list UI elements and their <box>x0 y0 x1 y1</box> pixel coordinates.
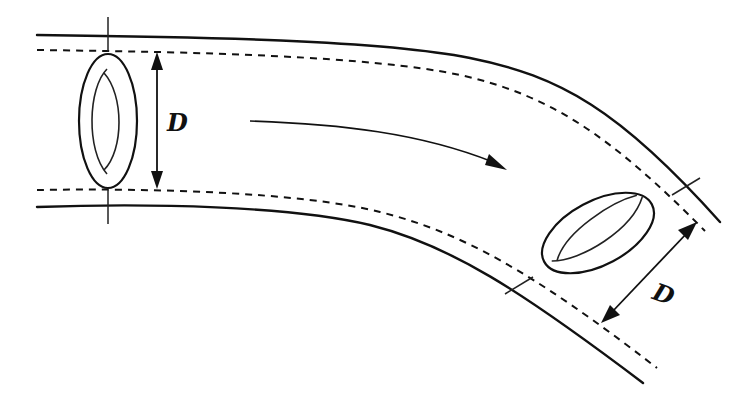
curved-pipe-diagram: D D <box>0 0 751 405</box>
right-cross-section <box>529 176 667 290</box>
left-diameter-label: D <box>166 108 188 137</box>
right-diameter-label: D <box>648 276 679 311</box>
tick-right-bottom <box>505 277 533 294</box>
tick-right-top <box>672 178 700 195</box>
left-diameter-dimension <box>151 52 163 189</box>
flow-direction-arrow <box>250 121 507 170</box>
left-cross-section <box>79 54 137 188</box>
